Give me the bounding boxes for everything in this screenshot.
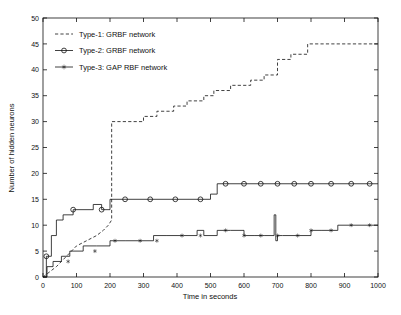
y-axis-ticks (43, 18, 378, 277)
chart-legend: Type-1: GRBF networkType-2: GRBF network… (55, 30, 167, 72)
y-tick-label: 10 (31, 222, 39, 229)
legend-entry-2: Type-2: GRBF network (55, 46, 156, 55)
data-point-marker (66, 259, 69, 263)
legend-entry-1: Type-1: GRBF network (55, 30, 156, 39)
legend-label: Type-2: GRBF network (79, 46, 156, 55)
x-tick-label: 500 (205, 282, 217, 289)
x-tick-label: 600 (238, 282, 250, 289)
y-tick-label: 40 (31, 66, 39, 73)
y-tick-label: 5 (35, 248, 39, 255)
x-tick-label: 800 (305, 282, 317, 289)
y-tick-label: 45 (31, 41, 39, 48)
y-tick-label: 35 (31, 92, 39, 99)
plot-frame (43, 18, 378, 277)
series-1 (43, 44, 378, 277)
x-tick-label: 0 (41, 282, 45, 289)
x-axis-tick-labels: 01002003004005006007008009001000 (41, 282, 386, 289)
data-point-marker (93, 249, 96, 253)
data-series-group (43, 44, 378, 277)
x-tick-label: 100 (71, 282, 83, 289)
series-2 (43, 181, 378, 277)
y-tick-label: 50 (31, 15, 39, 22)
x-tick-label: 300 (138, 282, 150, 289)
legend-entry-3: Type-3: GAP RBF network (55, 63, 167, 72)
y-tick-label: 20 (31, 170, 39, 177)
x-tick-label: 200 (104, 282, 116, 289)
series-3 (43, 215, 378, 277)
y-tick-label: 25 (31, 144, 39, 151)
x-tick-label: 400 (171, 282, 183, 289)
data-point-marker (199, 234, 202, 238)
x-axis-title: Time in seconds (183, 292, 238, 301)
chart-figure: 01002003004005006007008009001000 0510152… (0, 0, 401, 315)
x-tick-label: 1000 (370, 282, 386, 289)
y-axis-title: Number of hidden neurons (7, 103, 16, 192)
x-axis-ticks (43, 18, 378, 277)
y-tick-label: 30 (31, 118, 39, 125)
legend-label: Type-1: GRBF network (79, 30, 156, 39)
data-point-marker (155, 239, 158, 243)
x-tick-label: 700 (272, 282, 284, 289)
y-tick-label: 0 (35, 274, 39, 281)
x-tick-label: 900 (339, 282, 351, 289)
y-axis-tick-labels: 05101520253035404550 (31, 15, 39, 281)
legend-label: Type-3: GAP RBF network (79, 63, 167, 72)
y-tick-label: 15 (31, 196, 39, 203)
chart-canvas: 01002003004005006007008009001000 0510152… (0, 0, 401, 315)
